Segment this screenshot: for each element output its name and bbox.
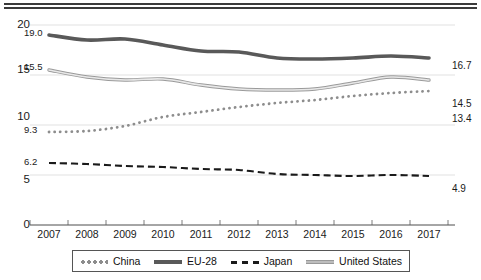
y-tick-10: 10	[4, 110, 30, 122]
y-tick-0: 0	[4, 218, 30, 230]
x-tick-2015: 2015	[333, 228, 373, 240]
x-tick-2017: 2017	[409, 228, 449, 240]
legend-swatch-dashed-icon	[231, 261, 259, 264]
line-chart: 20 15 10 5 0 19.0 15.5 9.3 6.2 16.7 14.5…	[0, 0, 481, 280]
x-tick-2008: 2008	[67, 228, 107, 240]
end-label-eu28: 16.7	[452, 60, 471, 71]
x-tick-2012: 2012	[219, 228, 259, 240]
legend-label-japan: Japan	[264, 255, 293, 267]
legend-label-eu28: EU-28	[187, 255, 217, 267]
legend-swatch-thick-line-icon	[154, 260, 182, 263]
legend-item-china[interactable]: China	[80, 255, 140, 267]
x-tick-2010: 2010	[143, 228, 183, 240]
start-label-us: 15.5	[24, 61, 43, 72]
legend-item-eu28[interactable]: EU-28	[154, 255, 217, 267]
x-tick-2014: 2014	[295, 228, 335, 240]
x-tick-2013: 2013	[257, 228, 297, 240]
x-tick-2011: 2011	[181, 228, 221, 240]
legend-label-china: China	[113, 255, 140, 267]
chart-legend: China EU-28 Japan United States	[72, 250, 410, 272]
x-tick-2009: 2009	[105, 228, 145, 240]
start-label-china: 9.3	[24, 124, 37, 135]
legend-label-united-states: United States	[339, 255, 402, 267]
x-tick-2007: 2007	[29, 228, 69, 240]
legend-item-japan[interactable]: Japan	[231, 255, 293, 267]
legend-swatch-light-line-icon	[306, 260, 334, 264]
end-label-china: 13.4	[452, 113, 471, 124]
y-tick-5: 5	[4, 173, 30, 185]
end-label-us: 14.5	[452, 98, 471, 109]
end-label-japan: 4.9	[452, 183, 466, 194]
start-label-eu28: 19.0	[24, 27, 43, 38]
start-label-japan: 6.2	[24, 156, 37, 167]
x-tick-2016: 2016	[371, 228, 411, 240]
legend-swatch-dotted-icon	[80, 258, 108, 265]
legend-item-united-states[interactable]: United States	[306, 255, 402, 267]
